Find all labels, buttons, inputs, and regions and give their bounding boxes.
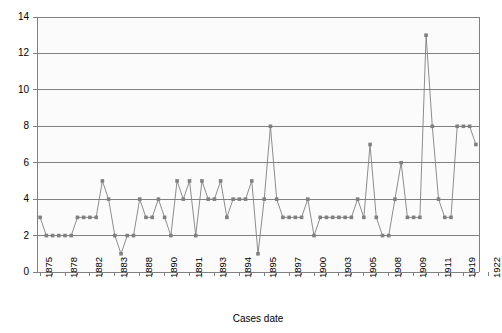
data-point — [169, 234, 173, 238]
data-point — [331, 216, 335, 220]
y-tick-label: 4 — [7, 194, 29, 204]
data-point — [300, 216, 304, 220]
x-tick-label: 1897 — [293, 257, 303, 278]
data-point — [287, 216, 291, 220]
data-point — [449, 216, 453, 220]
data-point — [157, 197, 161, 201]
data-point — [393, 197, 397, 201]
data-point — [275, 197, 279, 201]
data-point — [343, 216, 347, 220]
data-point — [368, 143, 372, 147]
x-tick-label: 1909 — [418, 257, 428, 278]
x-tick-label: 1888 — [144, 257, 154, 278]
y-tick-label: 6 — [7, 158, 29, 168]
x-axis-title: Cases date — [198, 313, 318, 324]
x-tick-label: 1908 — [393, 257, 403, 278]
data-point — [113, 234, 117, 238]
data-point — [374, 216, 378, 220]
data-point — [132, 234, 136, 238]
data-point — [387, 234, 391, 238]
data-point — [206, 197, 210, 201]
y-tick-label: 0 — [7, 267, 29, 277]
x-tick-label: 1894 — [243, 257, 253, 278]
data-point — [94, 216, 98, 220]
data-point — [188, 179, 192, 183]
x-tick-label: 1875 — [44, 257, 54, 278]
x-tick-label: 1890 — [169, 257, 179, 278]
data-point — [57, 234, 61, 238]
data-point — [82, 216, 86, 220]
x-tick-label: 1905 — [368, 257, 378, 278]
data-point — [474, 143, 478, 147]
x-tick-label: 1893 — [218, 257, 228, 278]
data-point — [138, 197, 142, 201]
data-point — [63, 234, 67, 238]
x-tick-label: 1895 — [268, 257, 278, 278]
data-point — [175, 179, 179, 183]
data-point — [69, 234, 73, 238]
data-point — [424, 33, 428, 37]
data-point — [163, 216, 167, 220]
data-point — [306, 197, 310, 201]
data-point — [399, 161, 403, 165]
data-point — [418, 216, 422, 220]
data-point — [462, 124, 466, 128]
x-tick-label: 1911 — [443, 258, 453, 278]
data-point — [200, 179, 204, 183]
data-point — [256, 252, 260, 256]
data-point — [318, 216, 322, 220]
data-point — [269, 124, 273, 128]
data-point — [250, 179, 254, 183]
data-point — [244, 197, 248, 201]
x-tick-label: 1882 — [94, 257, 104, 278]
data-point — [262, 197, 266, 201]
data-point — [107, 197, 111, 201]
data-point — [213, 197, 217, 201]
data-point — [38, 216, 42, 220]
data-point — [337, 216, 341, 220]
y-tick-label: 10 — [7, 85, 29, 95]
data-point — [443, 216, 447, 220]
data-point — [294, 216, 298, 220]
data-point — [225, 216, 229, 220]
data-point — [219, 179, 223, 183]
data-point — [350, 216, 354, 220]
data-point — [194, 234, 198, 238]
data-point — [231, 197, 235, 201]
data-point — [119, 252, 123, 256]
y-tick-label: 8 — [7, 121, 29, 131]
data-point — [406, 216, 410, 220]
data-point — [76, 216, 80, 220]
data-point — [455, 124, 459, 128]
data-point — [51, 234, 55, 238]
y-tick-label: 2 — [7, 231, 29, 241]
data-point — [182, 197, 186, 201]
data-point — [144, 216, 148, 220]
data-point — [125, 234, 129, 238]
data-point — [381, 234, 385, 238]
data-point — [101, 179, 105, 183]
data-point — [45, 234, 49, 238]
data-point — [88, 216, 92, 220]
x-tick-label: 1919 — [467, 257, 477, 278]
data-point — [362, 216, 366, 220]
data-point — [412, 216, 416, 220]
y-tick-label: 12 — [7, 48, 29, 58]
data-point — [150, 216, 154, 220]
data-point — [325, 216, 329, 220]
data-point — [437, 197, 441, 201]
x-tick-label: 1903 — [343, 257, 353, 278]
y-tick-label: 14 — [7, 12, 29, 22]
data-point — [431, 124, 435, 128]
x-tick-label: 1878 — [69, 257, 79, 278]
data-point — [468, 124, 472, 128]
plot-background — [37, 17, 479, 272]
data-point — [238, 197, 242, 201]
x-tick-label: 1900 — [318, 257, 328, 278]
data-point — [312, 234, 316, 238]
x-tick-label: 1922 — [492, 257, 502, 278]
data-point — [281, 216, 285, 220]
x-tick-label: 1891 — [194, 257, 204, 278]
